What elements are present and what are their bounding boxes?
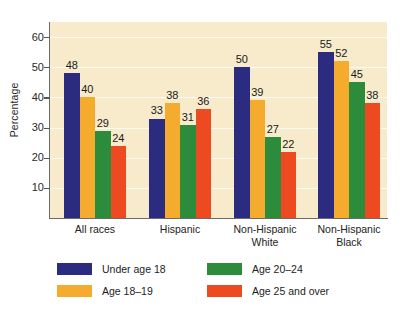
legend-swatch — [57, 263, 92, 275]
bar-value-label: 31 — [174, 112, 202, 123]
legend-item: Age 18–19 — [57, 285, 207, 297]
y-tick-label: 10 — [14, 182, 44, 193]
bar-chart-figure: 102030405060 Percentage All racesHispani… — [0, 0, 407, 311]
y-axis-line — [49, 22, 50, 219]
legend-label: Age 18–19 — [102, 285, 153, 297]
bar — [149, 119, 165, 219]
bar — [318, 52, 334, 218]
legend-label: Under age 18 — [102, 263, 166, 275]
bar-value-label: 27 — [259, 124, 287, 135]
legend-swatch — [207, 263, 242, 275]
y-tick-mark — [44, 188, 50, 189]
bar-value-label: 39 — [244, 87, 272, 98]
bar-value-label: 48 — [58, 60, 86, 71]
bar-value-label: 38 — [359, 90, 387, 101]
bar — [349, 82, 365, 218]
bar-value-label: 36 — [190, 96, 218, 107]
bar-value-label: 24 — [105, 133, 133, 144]
bar — [111, 146, 127, 218]
x-axis-category-label: All races — [50, 223, 140, 236]
y-tick-mark — [44, 37, 50, 38]
y-tick-mark — [44, 67, 50, 68]
bar — [365, 103, 381, 218]
y-tick-label: 60 — [14, 32, 44, 43]
legend-label: Age 20–24 — [252, 263, 303, 275]
bar-value-label: 52 — [328, 48, 356, 59]
chart-legend: Under age 18Age 20–24Age 18–19Age 25 and… — [57, 258, 357, 302]
bar-value-label: 29 — [89, 118, 117, 129]
bar — [196, 109, 212, 218]
bar-value-label: 50 — [228, 54, 256, 65]
bar-value-label: 40 — [74, 84, 102, 95]
y-tick-mark — [44, 97, 50, 98]
y-axis-title: Percentage — [8, 65, 20, 155]
legend-swatch — [57, 285, 92, 297]
x-axis-category-label: Non-Hispanic Black — [304, 223, 394, 248]
x-axis-category-label: Hispanic — [135, 223, 225, 236]
y-tick-mark — [44, 158, 50, 159]
legend-item: Age 20–24 — [207, 263, 357, 275]
gridline — [50, 37, 387, 38]
bar-value-label: 38 — [159, 90, 187, 101]
legend-swatch — [207, 285, 242, 297]
bar — [334, 61, 350, 218]
bar-value-label: 33 — [143, 105, 171, 116]
legend-item: Age 25 and over — [207, 285, 357, 297]
x-axis-line — [49, 218, 388, 219]
bar — [80, 97, 96, 218]
legend-item: Under age 18 — [57, 263, 207, 275]
bar — [281, 152, 297, 218]
bar-value-label: 45 — [343, 69, 371, 80]
x-axis-category-label: Non-Hispanic White — [220, 223, 310, 248]
bar — [95, 131, 111, 218]
bar-value-label: 22 — [275, 139, 303, 150]
legend-label: Age 25 and over — [252, 285, 329, 297]
bar — [250, 100, 266, 218]
bar — [180, 125, 196, 218]
y-tick-mark — [44, 128, 50, 129]
